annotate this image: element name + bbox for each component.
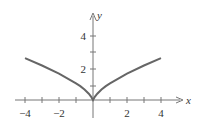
x-tick-label: −2 [53, 107, 65, 119]
x-tick-label: 2 [124, 107, 130, 119]
x-tick-label: −4 [19, 107, 31, 119]
y-axis-label: y [96, 9, 102, 21]
y-tick-label: 4 [81, 30, 87, 42]
chart: −4 −2 2 4 2 4 x y [0, 0, 199, 125]
y-tick-label: 2 [81, 63, 87, 75]
x-tick-label: 4 [158, 107, 164, 119]
x-axis-label: x [185, 94, 191, 106]
